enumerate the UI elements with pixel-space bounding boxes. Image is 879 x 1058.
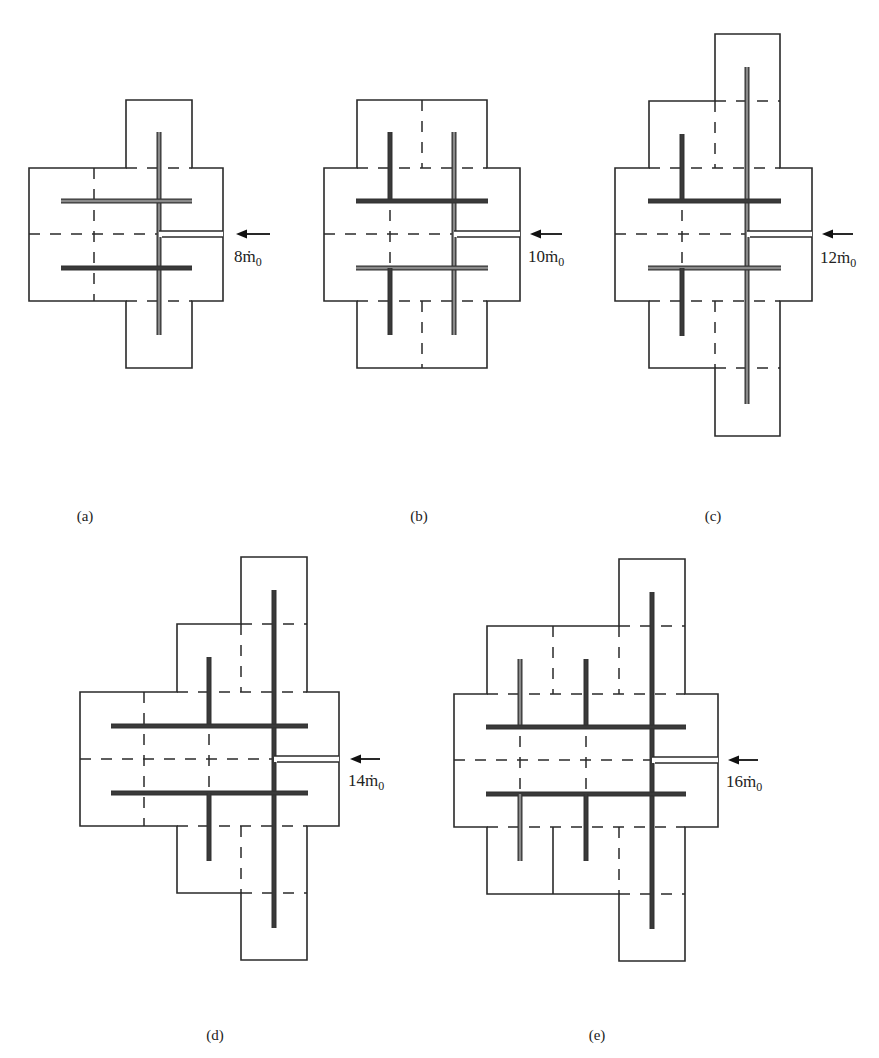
flow-arrow-icon <box>728 756 758 765</box>
inlet-pipe <box>274 756 339 762</box>
flow-rate-label: 8ṁ0 <box>234 247 262 269</box>
flow-arrow-icon <box>822 230 853 239</box>
flow-arrow-icon <box>530 230 562 239</box>
panel-c: 12ṁ0(c) <box>615 34 856 525</box>
inlet-pipe <box>652 757 718 763</box>
panels-group: 8ṁ0(a)10ṁ0(b)12ṁ0(c)14ṁ0(d)16ṁ0(e) <box>29 34 856 1044</box>
flow-arrow-icon <box>236 230 270 239</box>
flow-rate-label: 12ṁ0 <box>820 248 856 270</box>
inlet-pipe <box>454 231 520 237</box>
manifold-layout-figure: 8ṁ0(a)10ṁ0(b)12ṁ0(c)14ṁ0(d)16ṁ0(e) <box>0 0 879 1058</box>
flow-rate-label: 10ṁ0 <box>528 247 564 269</box>
panel-label-d: (d) <box>206 1027 224 1044</box>
flow-rate-label: 14ṁ0 <box>348 771 384 793</box>
panel-label-e: (e) <box>589 1027 606 1044</box>
panel-label-b: (b) <box>410 508 428 525</box>
panel-a: 8ṁ0(a) <box>29 100 270 525</box>
inlet-pipe <box>747 231 812 237</box>
panel-label-c: (c) <box>705 508 722 525</box>
panel-label-a: (a) <box>77 508 94 525</box>
inlet-pipe <box>159 231 223 237</box>
flow-rate-label: 16ṁ0 <box>726 772 762 794</box>
flow-arrow-icon <box>350 755 380 764</box>
panel-e: 16ṁ0(e) <box>454 559 762 1044</box>
panel-d: 14ṁ0(d) <box>80 557 384 1044</box>
panel-b: 10ṁ0(b) <box>324 100 564 525</box>
